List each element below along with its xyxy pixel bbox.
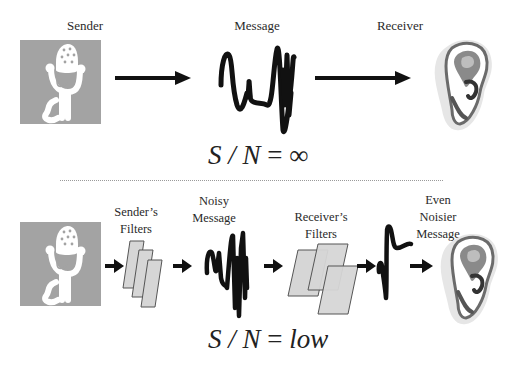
label-line: Receiver’s xyxy=(286,209,356,226)
right-arrow-icon xyxy=(173,259,193,273)
noisy-message-label: Noisy Message xyxy=(186,193,242,227)
label-line: Filters xyxy=(106,221,166,238)
ear-icon xyxy=(430,36,500,132)
right-arrow-icon xyxy=(264,259,284,273)
label-line: Noisier xyxy=(408,209,468,226)
snr-infinite-formula: S / N = ∞ xyxy=(208,140,309,171)
message-waveform-icon xyxy=(215,45,295,140)
label-line: Message xyxy=(186,210,242,227)
snr-low-formula: S / N = low xyxy=(208,324,328,355)
microphone-icon xyxy=(20,40,101,124)
label-line: Noisy xyxy=(186,193,242,210)
receivers-filters-label: Receiver’s Filters xyxy=(286,209,356,243)
formula-lhs: S / N xyxy=(208,140,261,170)
label-line: Sender’s xyxy=(106,204,166,221)
ear-icon xyxy=(436,230,506,326)
right-arrow-icon xyxy=(313,70,413,86)
section-divider xyxy=(60,180,443,181)
formula-lhs: S / N xyxy=(208,324,261,354)
senders-filters-label: Sender’s Filters xyxy=(106,204,166,238)
label-line: Filters xyxy=(286,226,356,243)
receivers-filters-icon xyxy=(288,244,358,316)
label-line: Even xyxy=(408,192,468,209)
right-arrow-icon xyxy=(357,259,377,273)
message-label: Message xyxy=(225,18,289,33)
formula-rhs-low: low xyxy=(289,324,328,354)
right-arrow-icon xyxy=(410,259,434,273)
sender-label: Sender xyxy=(58,18,112,33)
microphone-icon xyxy=(20,222,101,306)
formula-rhs-infinity: ∞ xyxy=(289,140,308,170)
receiver-label: Receiver xyxy=(370,18,430,33)
right-arrow-icon xyxy=(113,70,193,86)
senders-filters-icon xyxy=(122,240,167,310)
formula-equals: = xyxy=(267,140,282,170)
formula-equals: = xyxy=(267,324,282,354)
noisy-message-waveform-icon xyxy=(203,228,253,323)
even-noisier-waveform-icon xyxy=(377,224,413,304)
